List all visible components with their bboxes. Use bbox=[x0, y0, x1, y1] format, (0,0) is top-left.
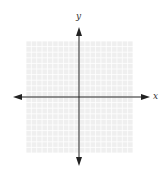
coordinate-grid bbox=[0, 0, 167, 174]
arrow-left-icon bbox=[13, 94, 22, 100]
coordinate-plane: x y bbox=[0, 0, 167, 174]
arrow-down-icon bbox=[76, 157, 82, 166]
arrow-up-icon bbox=[76, 27, 82, 36]
y-axis-label: y bbox=[76, 12, 81, 21]
arrow-right-icon bbox=[141, 94, 150, 100]
x-axis-label: x bbox=[153, 92, 158, 101]
